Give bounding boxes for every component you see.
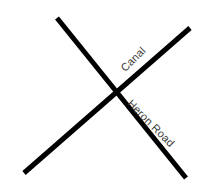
heron-road-line: [57, 18, 186, 178]
road-intersection-diagram: Canal Heron Road: [0, 0, 200, 190]
diagram-svg: [0, 0, 200, 190]
